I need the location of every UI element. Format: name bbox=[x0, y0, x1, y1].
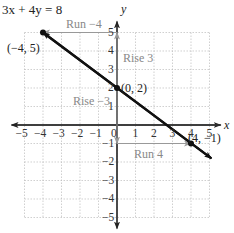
x-tick-label: −1 bbox=[90, 128, 102, 140]
y-tick-label: 3 bbox=[108, 64, 114, 76]
y-tick-label: −5 bbox=[102, 212, 114, 224]
x-tick-label: 1 bbox=[133, 128, 139, 140]
run-4-label: Run 4 bbox=[134, 148, 163, 160]
point-label-0-2: (0, 2) bbox=[121, 82, 147, 94]
y-tick-label: −4 bbox=[102, 193, 114, 205]
rise-neg3-label: Rise −3 bbox=[73, 95, 110, 107]
point-label-neg4-5: (−4, 5) bbox=[7, 42, 40, 54]
y-tick-label: −3 bbox=[102, 175, 114, 187]
equation-label: 3x + 4y = 8 bbox=[2, 3, 62, 16]
y-tick-label: 5 bbox=[108, 27, 114, 39]
point-label-4-neg1: (4, −1) bbox=[188, 132, 221, 144]
y-tick-label: 4 bbox=[108, 45, 114, 57]
y-tick-label: −1 bbox=[102, 138, 114, 150]
y-tick-label: 2 bbox=[108, 82, 114, 94]
x-tick-label: −2 bbox=[71, 128, 83, 140]
x-tick-label: −3 bbox=[53, 128, 65, 140]
rise-3-label: Rise 3 bbox=[123, 52, 153, 64]
y-tick-label: −2 bbox=[102, 156, 114, 168]
run-neg4-label: Run −4 bbox=[66, 18, 102, 30]
coordinate-plane bbox=[0, 0, 234, 233]
x-tick-label: −4 bbox=[34, 128, 46, 140]
x-tick-label: −5 bbox=[16, 128, 28, 140]
x-axis-label: x bbox=[224, 119, 229, 131]
y-axis-label: y bbox=[121, 3, 126, 15]
x-tick-label: 2 bbox=[151, 128, 157, 140]
x-tick-label: 3 bbox=[170, 128, 176, 140]
